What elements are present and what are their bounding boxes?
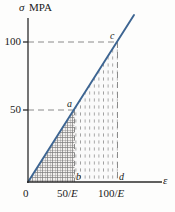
x-tick-label-0: 0 — [23, 188, 29, 199]
point-label-d: d — [119, 172, 124, 182]
y-axis — [23, 18, 28, 183]
y-tick-label-100: 100 — [0, 36, 21, 47]
y-axis-unit: MPA — [29, 2, 52, 13]
x-tick-label-50-over-E: 50/E — [57, 188, 78, 199]
point-label-a: a — [67, 99, 72, 109]
stress-strain-figure: σ MPA ε 100 50 0 50/E 100/E a b c d — [0, 0, 175, 212]
y-tick-label-50: 50 — [0, 104, 21, 115]
point-label-b: b — [76, 172, 81, 182]
x-axis-symbol: ε — [163, 175, 167, 186]
x-tick-100-num: 100 — [98, 187, 115, 199]
x-tick-label-100-over-E: 100/E — [98, 188, 124, 199]
x-tick-100-den: E — [118, 187, 125, 199]
point-label-c: c — [110, 31, 114, 41]
x-tick-50-num: 50 — [57, 187, 68, 199]
y-axis-symbol: σ — [19, 2, 24, 13]
x-tick-50-den: E — [71, 187, 78, 199]
chart-canvas — [0, 0, 175, 212]
